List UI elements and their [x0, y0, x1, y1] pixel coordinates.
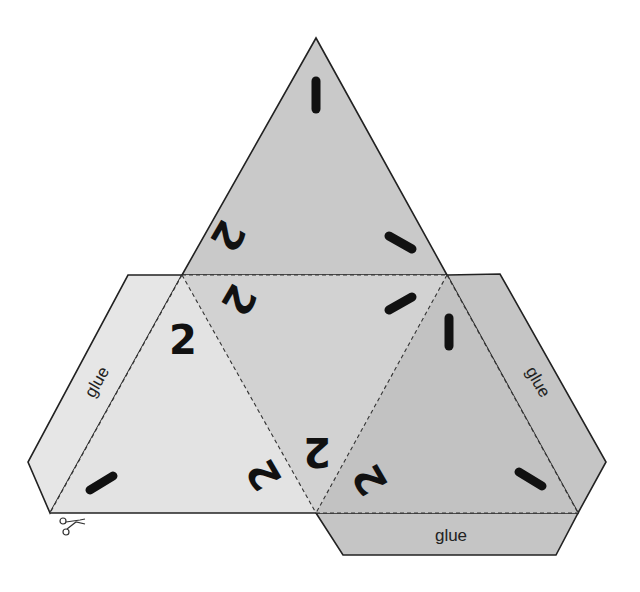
mark-two: 2 [303, 429, 331, 475]
glue-label-bottom: glue [435, 526, 467, 545]
tetrahedron-net: 2 2 2 2 2 2 glue glue glue [0, 0, 640, 592]
scissors-icon [60, 518, 85, 535]
mark-two: 2 [169, 317, 197, 363]
